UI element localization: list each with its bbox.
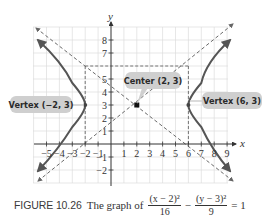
- fraction-x-term: (x − 2)² 16: [148, 194, 180, 217]
- svg-text:−5: −5: [41, 148, 52, 159]
- svg-text:−3: −3: [67, 148, 78, 159]
- svg-text:2: 2: [134, 148, 139, 159]
- svg-text:6: 6: [186, 148, 191, 159]
- svg-text:2: 2: [102, 113, 107, 124]
- svg-text:Center (2, 3): Center (2, 3): [124, 76, 183, 86]
- svg-text:−1: −1: [96, 152, 107, 163]
- svg-text:9: 9: [225, 148, 230, 159]
- svg-text:−2: −2: [80, 148, 91, 159]
- svg-text:4: 4: [160, 148, 165, 159]
- svg-text:7: 7: [102, 48, 107, 59]
- svg-text:1: 1: [121, 148, 126, 159]
- figure-caption: FIGURE 10.26 The graph of (x − 2)² 16 − …: [14, 192, 266, 218]
- svg-text:8: 8: [102, 35, 107, 46]
- svg-text:5: 5: [173, 148, 178, 159]
- svg-text:−4: −4: [54, 148, 65, 159]
- x-tick-labels: −5 −4 −3 −2 −1 1 2 3 4 5 6 7 8 9: [41, 148, 229, 159]
- callout-right-vertex: Vertex (6, 3): [190, 92, 262, 109]
- callout-left-vertex: Vertex (−2, 3): [9, 96, 84, 113]
- svg-text:3: 3: [102, 100, 107, 111]
- svg-text:Vertex (6, 3): Vertex (6, 3): [203, 96, 261, 106]
- right-vertex-point: [186, 103, 190, 107]
- y-axis-label: y: [107, 10, 113, 22]
- fraction-y-term: (y − 3)² 9: [195, 194, 227, 217]
- hyperbola-figure: −5 −4 −3 −2 −1 1 2 3 4 5 6 7 8 9 8 7 5 4…: [0, 0, 266, 219]
- fraction-x-denominator: 16: [160, 206, 170, 217]
- fraction-y-numerator: (y − 3)²: [195, 194, 227, 206]
- x-axis-label: x: [239, 137, 245, 149]
- figure-number: FIGURE 10.26: [14, 199, 82, 211]
- svg-text:Vertex (−2, 3): Vertex (−2, 3): [9, 100, 74, 110]
- svg-text:5: 5: [102, 74, 107, 85]
- caption-text: The graph of: [87, 199, 144, 211]
- callout-center: Center (2, 3): [124, 72, 183, 104]
- fraction-y-denominator: 9: [209, 206, 214, 217]
- svg-text:8: 8: [212, 148, 217, 159]
- minus-operator: −: [185, 199, 191, 211]
- svg-text:4: 4: [102, 87, 107, 98]
- equals-one: = 1: [231, 199, 245, 211]
- svg-text:−2: −2: [96, 165, 107, 176]
- svg-text:3: 3: [147, 148, 152, 159]
- svg-text:1: 1: [102, 126, 107, 137]
- center-point: [134, 103, 139, 108]
- svg-text:7: 7: [199, 148, 204, 159]
- fraction-x-numerator: (x − 2)²: [148, 194, 180, 206]
